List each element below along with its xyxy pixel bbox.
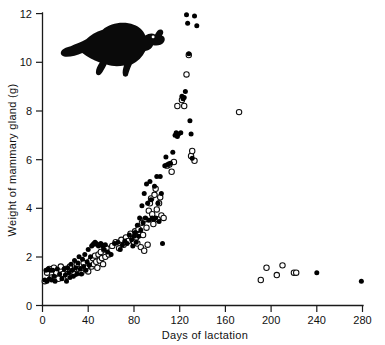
data-point: [182, 95, 187, 100]
data-point: [95, 265, 100, 270]
data-point: [144, 225, 149, 230]
data-point: [186, 51, 191, 56]
data-point: [168, 161, 173, 166]
data-point: [73, 265, 78, 270]
data-point: [236, 109, 241, 114]
data-point: [79, 271, 84, 276]
data-point: [130, 243, 135, 248]
data-point: [74, 271, 79, 276]
data-point: [51, 274, 56, 279]
data-point: [158, 174, 163, 179]
data-point: [53, 279, 58, 284]
data-point: [65, 265, 70, 270]
data-point: [115, 240, 120, 245]
data-point: [184, 12, 189, 17]
data-point: [86, 247, 91, 252]
data-point: [127, 232, 132, 237]
data-point: [103, 242, 108, 247]
data-point: [141, 220, 146, 225]
data-point: [75, 260, 80, 265]
data-point: [87, 263, 92, 268]
x-axis-tick-labels: 0 40 80 120 160 200 240 280: [39, 314, 371, 326]
data-point: [152, 184, 157, 189]
data-point: [160, 241, 165, 246]
data-point: [190, 156, 195, 161]
x-axis-title: Days of lactation: [162, 329, 248, 341]
scatter-plot-figure: 0 2 4 6 8 10 12 0 40 80 120 160 200 240: [0, 0, 385, 345]
y-tick-label-8: 8: [26, 105, 32, 117]
y-axis-ticks: [36, 14, 43, 306]
data-point: [163, 155, 168, 160]
data-point: [187, 118, 192, 123]
possum-silhouette-icon: [61, 23, 165, 77]
data-point: [133, 230, 138, 235]
data-point: [149, 197, 154, 202]
x-tick-label-40: 40: [82, 314, 94, 326]
data-point: [258, 277, 263, 282]
x-tick-label-80: 80: [128, 314, 140, 326]
data-point: [80, 257, 85, 262]
x-tick-label-120: 120: [171, 314, 189, 326]
data-point: [182, 103, 187, 108]
y-tick-label-12: 12: [20, 8, 32, 20]
x-tick-label-240: 240: [308, 314, 326, 326]
data-point: [190, 148, 195, 153]
x-tick-label-160: 160: [216, 314, 234, 326]
data-point: [154, 207, 159, 212]
data-point: [184, 72, 189, 77]
data-point: [161, 215, 166, 220]
x-axis-ticks: [43, 306, 363, 313]
data-point: [50, 268, 55, 273]
data-point: [194, 23, 199, 28]
data-point: [100, 261, 105, 266]
x-tick-label-200: 200: [262, 314, 280, 326]
data-point: [189, 132, 194, 137]
data-point: [151, 221, 156, 226]
data-point: [139, 203, 144, 208]
y-tick-label-4: 4: [26, 202, 32, 214]
y-axis-title: Weight of mammary gland (g): [6, 84, 18, 237]
data-point: [183, 89, 188, 94]
data-point: [118, 247, 123, 252]
data-point: [145, 201, 150, 206]
data-point: [314, 270, 319, 275]
data-point: [142, 248, 147, 253]
y-axis-tick-labels: 0 2 4 6 8 10 12: [20, 8, 32, 312]
plot-canvas: 0 2 4 6 8 10 12 0 40 80 120 160 200 240: [0, 0, 385, 345]
data-point: [57, 271, 62, 276]
x-tick-label-280: 280: [353, 314, 371, 326]
data-point: [155, 201, 160, 206]
data-point: [169, 169, 174, 174]
data-point: [125, 241, 130, 246]
y-tick-label-10: 10: [20, 56, 32, 68]
x-tick-label-0: 0: [39, 314, 45, 326]
data-point: [135, 223, 140, 228]
data-point: [134, 240, 139, 245]
data-point: [359, 279, 364, 284]
data-point: [142, 191, 147, 196]
data-point: [55, 267, 60, 272]
data-point: [153, 215, 158, 220]
data-point: [83, 268, 88, 273]
y-tick-label-6: 6: [26, 154, 32, 166]
data-point: [175, 103, 180, 108]
data-point: [69, 262, 74, 267]
data-point: [170, 150, 175, 155]
data-point: [140, 232, 145, 237]
data-point: [88, 254, 93, 259]
data-point: [192, 14, 197, 19]
data-point: [136, 234, 141, 239]
data-point: [64, 279, 69, 284]
data-point: [178, 130, 183, 135]
data-point: [159, 191, 164, 196]
y-tick-label-2: 2: [26, 251, 32, 263]
data-point: [138, 228, 143, 233]
data-point: [59, 276, 64, 281]
data-point: [185, 21, 190, 26]
data-point: [152, 192, 157, 197]
data-point: [147, 179, 152, 184]
data-point: [274, 272, 279, 277]
data-point: [145, 242, 150, 247]
data-point: [280, 263, 285, 268]
data-point: [294, 270, 299, 275]
